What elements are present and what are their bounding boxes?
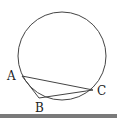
circle <box>18 12 106 100</box>
circle-diagram: A B C <box>0 0 117 114</box>
point-label-a: A <box>6 69 16 83</box>
geometry-figure: A B C <box>0 0 117 114</box>
bottom-divider <box>0 114 117 118</box>
segment-ac <box>22 76 93 90</box>
point-label-c: C <box>97 84 106 98</box>
point-label-b: B <box>35 101 44 114</box>
